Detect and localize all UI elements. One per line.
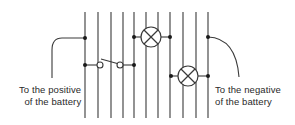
- label-line: To the positive: [19, 84, 81, 96]
- lamp-icon: [178, 66, 198, 86]
- label-line: of the battery: [215, 96, 281, 108]
- positive-lead-wire: [52, 38, 85, 78]
- switch-icon: [97, 62, 123, 68]
- negative-lead-wire: [208, 37, 239, 77]
- lamp-icon: [141, 27, 161, 47]
- label-line: of the battery: [19, 96, 81, 108]
- label-line: To the negative: [215, 84, 281, 96]
- switch-lever: [101, 59, 119, 64]
- negative-terminal-label: To the negative of the battery: [215, 84, 281, 108]
- positive-terminal-label: To the positive of the battery: [19, 84, 81, 108]
